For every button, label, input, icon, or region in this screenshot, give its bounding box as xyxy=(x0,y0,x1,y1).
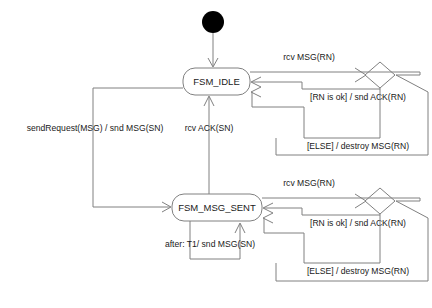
transition-send-request-label: sendRequest(MSG) / snd MSG(SN) xyxy=(27,123,164,133)
transition-rcv-msg-top-label: rcv MSG(RN) xyxy=(283,52,335,62)
transition-rn-ok-bottom-line xyxy=(264,208,380,215)
state-fsm-idle-label: FSM_IDLE xyxy=(193,76,239,87)
transition-send-request-line xyxy=(93,88,183,207)
state-fsm-msg-sent-label: FSM_MSG_SENT xyxy=(178,202,256,213)
decision-node-bottom[interactable] xyxy=(365,188,395,214)
diagram-canvas: FSM_IDLE FSM_MSG_SENT sendRequest(MSG) /… xyxy=(0,0,432,308)
transition-rcv-ack-label: rcv ACK(SN) xyxy=(185,123,234,133)
transition-rn-ok-top-label: [RN is ok] / snd ACK(RN) xyxy=(310,92,406,102)
transition-rn-ok-top-line xyxy=(252,82,380,89)
initial-pseudostate-icon xyxy=(202,11,224,33)
transition-rcv-msg-bottom-label: rcv MSG(RN) xyxy=(283,178,335,188)
transition-rcv-msg-bottom-line xyxy=(262,198,420,201)
transition-rn-ok-bottom-label: [RN is ok] / snd ACK(RN) xyxy=(310,218,406,228)
decision-node-top[interactable] xyxy=(365,62,395,88)
uml-state-diagram: FSM_IDLE FSM_MSG_SENT sendRequest(MSG) /… xyxy=(0,0,432,308)
transition-timeout-self-label: after: T1/ snd MSG(SN) xyxy=(165,239,255,249)
transition-else-bottom-label: [ELSE] / destroy MSG(RN) xyxy=(307,266,409,276)
transition-else-top-label: [ELSE] / destroy MSG(RN) xyxy=(307,141,409,151)
